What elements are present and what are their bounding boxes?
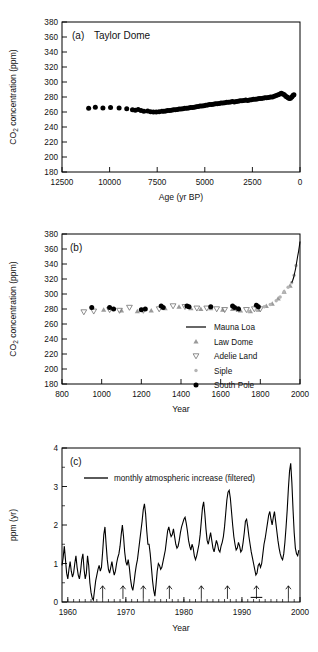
data-point-siple — [278, 295, 281, 298]
panel-label-c: (c) — [70, 456, 82, 467]
data-point-siple — [275, 299, 278, 302]
data-point-law-dome — [149, 308, 154, 313]
data-point-adelie-land — [214, 307, 220, 312]
x-ticklabel: 1980 — [175, 608, 194, 617]
plot-frame — [62, 448, 300, 602]
y-ticklabel: 180 — [44, 168, 58, 177]
data-point-siple — [263, 305, 266, 308]
y-ticklabel: 280 — [44, 305, 58, 314]
y-ticklabel: 1 — [53, 560, 58, 569]
legend-marker-adelie-land — [193, 354, 199, 359]
data-point-law-dome — [176, 304, 181, 309]
mauna-loa-line — [292, 242, 300, 283]
x-axis-title: Year — [172, 623, 190, 633]
data-point-south-pole — [236, 307, 241, 312]
data-point-adelie-land — [81, 310, 87, 315]
y-ticklabel: 4 — [53, 444, 58, 453]
x-ticklabel: 1400 — [172, 390, 191, 399]
y-ticklabel: 360 — [44, 245, 58, 254]
y-axis-title-pre: CO — [8, 131, 18, 144]
y-axis-title: CO2 concentration (ppm) — [8, 49, 19, 144]
y-ticklabel: 3 — [53, 483, 58, 492]
data-point-law-dome — [101, 307, 106, 312]
y-ticklabel: 300 — [44, 78, 58, 87]
legend-label-law-dome: Law Dome — [214, 338, 254, 347]
legend-label-monthly-increase: monthly atmospheric increase (filtered) — [114, 474, 255, 483]
y-ticklabel: 200 — [44, 365, 58, 374]
y-axis-title-post: concentration (ppm) — [8, 261, 18, 340]
co2-figure: 1802002202402602803003203403603801250010… — [0, 0, 318, 652]
data-point — [117, 105, 122, 110]
panel-c-growth-rate: 0123419601970198019902000Yearppm (yr)(c)… — [0, 430, 318, 652]
x-ticklabel: 2000 — [291, 390, 310, 399]
x-ticklabel: 800 — [55, 390, 69, 399]
x-ticklabel: 1600 — [212, 390, 231, 399]
legend-label-south-pole: South Pole — [214, 381, 255, 390]
data-point-south-pole — [143, 307, 148, 312]
x-ticklabel: 1800 — [251, 390, 270, 399]
panel-b-millennium: 1802002202402602803003203403603808001000… — [0, 218, 318, 430]
x-ticklabel: 2000 — [291, 608, 310, 617]
x-ticklabel: 12500 — [51, 178, 74, 187]
growth-rate-line — [62, 463, 299, 600]
y-ticklabel: 320 — [44, 63, 58, 72]
y-ticklabel: 260 — [44, 320, 58, 329]
panel-title-a: Taylor Dome — [94, 30, 151, 41]
legend-marker-law-dome — [193, 339, 198, 344]
data-point-south-pole — [186, 304, 191, 309]
legend-label-siple: Siple — [214, 367, 233, 376]
x-axis-title: Age (yr BP) — [159, 192, 204, 202]
panel-b-plot: 1802002202402602803003203403603808001000… — [0, 218, 318, 430]
data-point — [124, 106, 129, 111]
x-ticklabel: 7500 — [148, 178, 167, 187]
y-ticklabel: 380 — [44, 18, 58, 27]
x-ticklabel: 0 — [298, 178, 303, 187]
data-point-south-pole — [208, 304, 213, 309]
y-axis-title: CO2 concentration (ppm) — [8, 261, 19, 356]
data-point — [86, 106, 91, 111]
y-ticklabel: 320 — [44, 275, 58, 284]
y-ticklabel: 340 — [44, 48, 58, 57]
y-axis-title-post: concentration (ppm) — [8, 49, 18, 128]
y-ticklabel: 280 — [44, 93, 58, 102]
x-ticklabel: 1990 — [233, 608, 252, 617]
data-point-south-pole — [256, 304, 261, 309]
plot-frame — [62, 234, 300, 384]
y-ticklabel: 2 — [53, 521, 58, 530]
data-point — [93, 105, 98, 110]
data-point — [291, 92, 296, 97]
y-ticklabel: 300 — [44, 290, 58, 299]
y-ticklabel: 340 — [44, 260, 58, 269]
data-point-south-pole — [161, 305, 166, 310]
y-ticklabel: 180 — [44, 380, 58, 389]
x-ticklabel: 2500 — [243, 178, 262, 187]
legend-label-mauna-loa: Mauna Loa — [214, 323, 255, 332]
y-ticklabel: 220 — [44, 138, 58, 147]
y-ticklabel: 200 — [44, 153, 58, 162]
data-point-south-pole — [111, 307, 116, 312]
legend-marker-south-pole — [194, 383, 199, 388]
panel-a-taylor-dome: 1802002202402602803003203403603801250010… — [0, 0, 318, 218]
y-ticklabel: 380 — [44, 230, 58, 239]
panel-c-plot: 0123419601970198019902000Yearppm (yr)(c)… — [0, 430, 318, 652]
data-point-adelie-land — [127, 305, 133, 310]
x-ticklabel: 1000 — [93, 390, 112, 399]
y-ticklabel: 360 — [44, 33, 58, 42]
y-ticklabel: 260 — [44, 108, 58, 117]
data-point — [100, 105, 105, 110]
data-point-south-pole — [89, 305, 94, 310]
y-axis-title-pre: CO — [8, 343, 18, 356]
data-point-siple — [269, 303, 272, 306]
y-ticklabel: 0 — [53, 598, 58, 607]
x-ticklabel: 10000 — [98, 178, 121, 187]
data-point-siple — [247, 310, 250, 313]
data-point — [108, 105, 113, 110]
x-ticklabel: 1960 — [59, 608, 78, 617]
y-ticklabel: 240 — [44, 123, 58, 132]
x-axis-title: Year — [172, 404, 190, 414]
data-point-siple — [286, 286, 289, 289]
y-ticklabel: 220 — [44, 350, 58, 359]
panel-a-plot: 1802002202402602803003203403603801250010… — [0, 0, 318, 218]
x-ticklabel: 5000 — [196, 178, 215, 187]
legend-marker-siple — [194, 369, 197, 372]
